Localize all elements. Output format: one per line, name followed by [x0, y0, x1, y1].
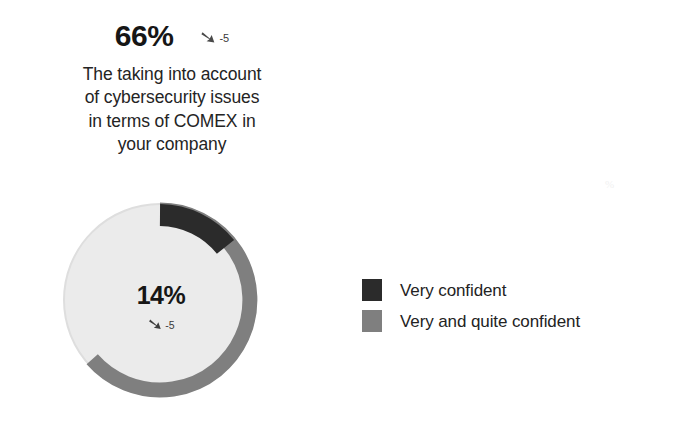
chart-legend: Very confident Very and quite confident [362, 279, 580, 332]
legend-label-very-and-quite-confident: Very and quite confident [400, 313, 580, 330]
headline-caption-line-2: of cybersecurity issues [22, 86, 322, 109]
arrow-down-right-icon [199, 27, 218, 46]
legend-item-very-and-quite-confident: Very and quite confident [362, 310, 580, 332]
headline-block: 66% -5 The taking into account of cybers… [22, 18, 322, 157]
slide-canvas: 66% -5 The taking into account of cybers… [0, 0, 683, 422]
donut-chart: 14% -5 [60, 197, 262, 403]
legend-item-very-confident: Very confident [362, 279, 580, 301]
headline-caption-line-1: The taking into account [22, 63, 322, 86]
headline-trend-group: -5 [199, 27, 229, 46]
headline-row: 66% -5 [22, 18, 322, 54]
legend-label-very-confident: Very confident [400, 282, 506, 299]
scan-artifact: % [605, 178, 614, 190]
donut-chart-svg [60, 197, 262, 403]
legend-swatch-very-confident [362, 279, 382, 301]
headline-trend-delta: -5 [219, 33, 229, 46]
legend-swatch-very-and-quite-confident [362, 310, 382, 332]
headline-caption: The taking into account of cybersecurity… [22, 63, 322, 157]
headline-caption-line-4: your company [22, 133, 322, 156]
headline-caption-line-3: in terms of COMEX in [22, 110, 322, 133]
headline-percentage: 66% [115, 21, 174, 51]
